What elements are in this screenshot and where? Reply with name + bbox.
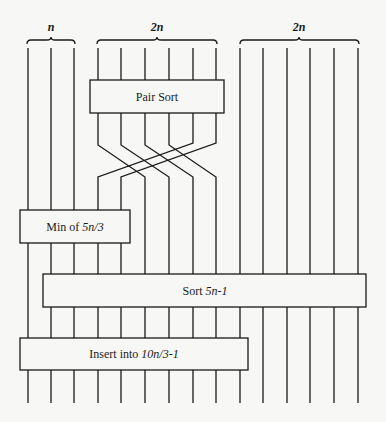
wires-crossing	[98, 113, 216, 274]
brace-group-2n-right	[240, 37, 359, 44]
min-label: Min of 5n/3	[46, 220, 103, 234]
pair-sort-label: Pair Sort	[136, 90, 179, 104]
brace-label-n: n	[48, 20, 55, 34]
brace-label-2n-right: 2n	[292, 20, 306, 34]
brace-group-2n-left	[97, 37, 217, 44]
wires-group-2n-right	[240, 48, 358, 274]
sort-label: Sort 5n-1	[182, 284, 227, 298]
brace-label-2n-left: 2n	[150, 20, 164, 34]
insert-var: 10n/3-1	[141, 347, 178, 361]
wires-below-insert	[28, 370, 216, 403]
min-var: 5n/3	[82, 220, 103, 234]
brace-group-n	[27, 37, 75, 44]
insert-label: Insert into 10n/3-1	[89, 347, 178, 361]
wires-group-n	[28, 48, 74, 210]
sort-var: 5n-1	[206, 284, 228, 298]
wires-group-2n-left-top	[98, 48, 216, 80]
sorting-network-diagram: n 2n 2n Pair Sort Min of 5n/3 Sort 5n-1 …	[0, 0, 386, 422]
